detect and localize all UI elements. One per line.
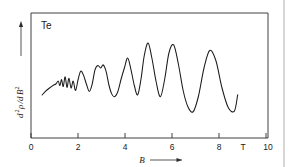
x-axis-title: B — [139, 155, 145, 165]
x-axis-tick-labels: 0 2 4 6 8 10 — [29, 142, 273, 152]
x-tick-label-4: 4 — [123, 142, 128, 152]
up-arrow-icon — [19, 21, 23, 56]
figure-container: 0 2 4 6 8 10 T B d 2 ρ /d B — [0, 0, 290, 167]
shubnikov-de-haas-plot: 0 2 4 6 8 10 T B d 2 ρ /d B — [0, 0, 290, 167]
x-tick-label-2: 2 — [76, 142, 81, 152]
x-tick-label-6: 6 — [170, 142, 175, 152]
sample-label: Te — [41, 20, 52, 31]
x-axis-unit-label: T — [240, 142, 245, 152]
y-axis-title-rho: ρ — [15, 104, 25, 110]
y-axis-title-divd: /d — [15, 96, 25, 105]
x-axis-ticks — [31, 133, 266, 138]
x-tick-label-10: 10 — [263, 142, 273, 152]
y-axis-title-exp2: 2 — [14, 87, 20, 90]
data-curve — [42, 43, 238, 112]
x-tick-label-0: 0 — [29, 142, 34, 152]
plot-frame — [31, 13, 268, 138]
x-axis-title-group: B — [139, 155, 182, 165]
y-axis-title-group: d 2 ρ /d B 2 — [14, 87, 25, 119]
y-axis-title-d: d — [15, 113, 25, 118]
x-tick-label-8: 8 — [217, 142, 222, 152]
right-arrow-icon — [150, 158, 182, 162]
